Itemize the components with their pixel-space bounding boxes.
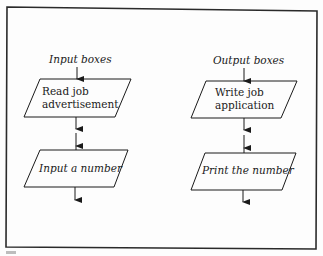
output-boxes-heading: Output boxes [213, 54, 284, 66]
input-boxes-heading: Input boxes [49, 53, 112, 65]
outer-frame [6, 7, 317, 249]
box-input-a-number: Write job Input a number [39, 162, 122, 175]
box-print-the-number: Print the number [202, 164, 294, 177]
box-line: Print the number [202, 164, 294, 177]
box-line: advertisement [42, 98, 118, 111]
flowchart-graphics [0, 0, 323, 256]
box-line: Read job [42, 85, 118, 98]
box-write-job-application: Write job application [215, 86, 274, 112]
box-line: Input a number [39, 162, 122, 175]
box-line: Write job [215, 86, 274, 99]
diagram-canvas: Input boxes Read job advertisement Write… [0, 0, 323, 256]
box-line: application [215, 99, 274, 112]
caption-fragment [6, 251, 16, 254]
box-read-job-advertisement: Read job advertisement [42, 85, 118, 111]
